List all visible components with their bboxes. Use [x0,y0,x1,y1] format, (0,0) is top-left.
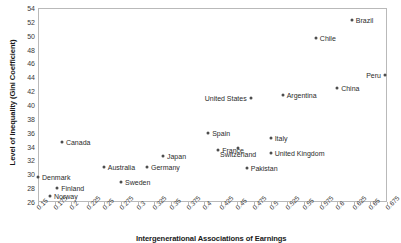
data-point [146,166,149,169]
data-point-label: China [341,85,359,92]
data-point [249,97,252,100]
data-point [314,37,317,40]
x-tick-0.225: 0.225 [85,194,102,211]
x-tick-0.15: 0.15 [35,197,49,211]
data-point-label: United Kingdom [275,149,325,156]
data-point [161,155,164,158]
x-tick-0.25: 0.25 [101,197,115,211]
x-tick-0.675: 0.675 [384,194,401,211]
data-point [102,165,105,168]
x-tick-0.35: 0.35 [168,197,182,211]
data-point [120,180,123,183]
data-point-label: Australia [108,163,135,170]
data-point [350,18,353,21]
x-axis-title: Intergenerational Associations of Earnin… [136,234,286,243]
data-point [384,73,387,76]
data-point-label: Germany [151,164,180,171]
x-tick-0.3: 0.3 [135,200,146,211]
x-tick-0.375: 0.375 [185,194,202,211]
data-point [37,176,40,179]
data-point-label: Peru [366,71,381,78]
x-tick-0.275: 0.275 [118,194,135,211]
data-point [60,141,63,144]
data-point-label: Argentina [287,92,317,99]
x-tick-0.5: 0.5 [268,200,279,211]
x-tick-0.4: 0.4 [201,200,212,211]
data-point-label: Spain [212,130,230,137]
data-point-label: Finland [61,185,84,192]
x-tick-0.6: 0.6 [334,200,345,211]
data-point [245,167,248,170]
data-point-label: Pakistan [251,165,278,172]
data-point-label: Brazil [356,16,374,23]
x-tick-0.2: 0.2 [68,200,79,211]
x-tick-0.425: 0.425 [218,194,235,211]
data-point [336,87,339,90]
x-tick-0.45: 0.45 [234,197,248,211]
x-tick-0.575: 0.575 [318,194,335,211]
data-point [48,195,51,198]
data-point-label: Denmark [42,174,70,181]
data-point [269,137,272,140]
data-point-label: Switzerland [220,151,256,158]
data-point [56,187,59,190]
x-tick-0.55: 0.55 [301,197,315,211]
x-tick-0.525: 0.525 [284,194,301,211]
data-point-label: Italy [275,135,288,142]
x-tick-0.625: 0.625 [351,194,368,211]
data-point-label: United States [205,95,247,102]
data-point-label: Chile [320,35,336,42]
x-tick-0.65: 0.65 [367,197,381,211]
data-point-label: Japan [167,153,186,160]
data-point-label: Canada [66,139,91,146]
data-point [207,132,210,135]
data-point [281,94,284,97]
data-point-label: Norway [54,193,78,200]
data-point [269,151,272,154]
x-tick-0.475: 0.475 [251,194,268,211]
data-point [237,146,240,149]
data-point-label: Sweden [125,178,150,185]
x-tick-0.325: 0.325 [151,194,168,211]
